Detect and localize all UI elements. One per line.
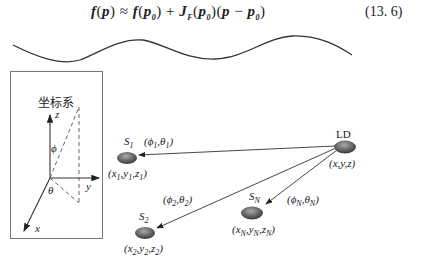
- s1-coords: (x1,y1,z1): [108, 167, 147, 182]
- sn-label: SN: [249, 190, 260, 205]
- axis-x-label: x: [35, 222, 40, 234]
- s2-label: S2: [139, 210, 149, 225]
- s1-angle: (ϕ1,θ1): [144, 135, 173, 150]
- node-sn: [241, 207, 263, 220]
- node-s2: [135, 227, 155, 239]
- angle-phi-label: ϕ: [51, 142, 57, 154]
- ld-coords: (x,y,z): [329, 157, 355, 169]
- sn-coords: (xN,yN,zN): [232, 223, 275, 238]
- figure: f(p) ≈ f(p0) + JF(p0)(p − p0) (13. 6): [0, 0, 422, 262]
- node-ld: [334, 141, 356, 154]
- diagram-canvas: [0, 0, 422, 262]
- s2-angle: (ϕ2,θ2): [163, 193, 192, 208]
- sn-angle: (ϕN,θN): [287, 193, 319, 208]
- ld-label: LD: [336, 128, 351, 140]
- axis-z-label: z: [55, 108, 59, 120]
- angle-theta-label: θ: [48, 184, 53, 196]
- wavy-separator: [13, 36, 352, 62]
- node-s1: [117, 152, 137, 164]
- s2-coords: (x2,y2,z2): [124, 242, 163, 257]
- axis-y-label: y: [86, 180, 91, 192]
- s1-label: S1: [124, 135, 134, 150]
